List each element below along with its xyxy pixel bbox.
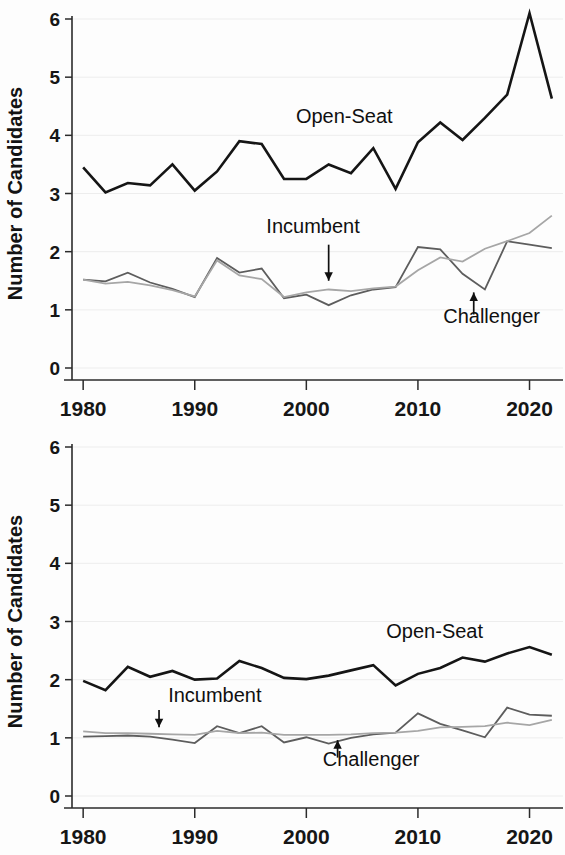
y-tick-label-3: 3 xyxy=(49,184,60,205)
y-tick-label-2: 2 xyxy=(49,670,60,691)
y-tick-label-6: 6 xyxy=(49,437,60,458)
y-tick-label-1: 1 xyxy=(49,300,60,321)
y-tick-label-3: 3 xyxy=(49,612,60,633)
x-tick-label-2020: 2020 xyxy=(506,825,553,848)
chart-panel-bottom: 012345619801990200020102020Number of Can… xyxy=(0,428,565,855)
x-tick-label-1990: 1990 xyxy=(171,825,218,848)
y-tick-label-6: 6 xyxy=(49,9,60,30)
y-axis-title: Number of Candidates xyxy=(4,87,26,300)
series-line-open-seat xyxy=(83,13,552,192)
x-tick-label-2000: 2000 xyxy=(283,825,330,848)
y-tick-label-0: 0 xyxy=(49,786,60,807)
y-tick-label-2: 2 xyxy=(49,242,60,263)
open-seat-label: Open-Seat xyxy=(386,620,483,642)
y-tick-label-1: 1 xyxy=(49,728,60,749)
series-line-incumbent xyxy=(83,720,552,735)
incumbent-label: Incumbent xyxy=(168,684,262,706)
incumbent-label-arrow-head xyxy=(155,719,163,728)
x-tick-label-2010: 2010 xyxy=(395,397,442,420)
x-tick-label-1980: 1980 xyxy=(60,397,107,420)
challenger-label-arrow-head xyxy=(470,292,478,301)
x-tick-label-2010: 2010 xyxy=(395,825,442,848)
chart-panel-top: 012345619801990200020102020Number of Can… xyxy=(0,0,565,427)
y-tick-label-5: 5 xyxy=(49,495,60,516)
y-tick-label-5: 5 xyxy=(49,67,60,88)
line-chart-bottom: 012345619801990200020102020Number of Can… xyxy=(0,428,565,855)
y-tick-label-4: 4 xyxy=(49,553,60,574)
x-tick-label-1990: 1990 xyxy=(171,397,218,420)
x-tick-label-1980: 1980 xyxy=(60,825,107,848)
x-tick-label-2000: 2000 xyxy=(283,397,330,420)
figure-container: 012345619801990200020102020Number of Can… xyxy=(0,0,565,855)
line-chart-top: 012345619801990200020102020Number of Can… xyxy=(0,0,565,427)
incumbent-label: Incumbent xyxy=(266,215,360,237)
incumbent-label-arrow-head xyxy=(324,272,332,281)
challenger-label: Challenger xyxy=(443,305,540,327)
y-axis-title: Number of Candidates xyxy=(4,515,26,728)
series-line-open-seat xyxy=(83,647,552,690)
y-tick-label-4: 4 xyxy=(49,125,60,146)
open-seat-label: Open-Seat xyxy=(296,105,393,127)
x-tick-label-2020: 2020 xyxy=(506,397,553,420)
y-tick-label-0: 0 xyxy=(49,358,60,379)
